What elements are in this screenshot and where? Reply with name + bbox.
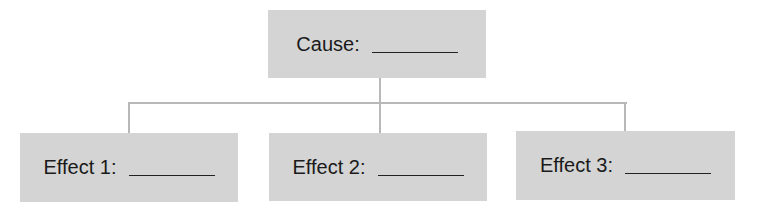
effect-2-blank[interactable] [378,159,464,176]
connector-horizontal [128,102,627,104]
effect-3-label: Effect 3: [540,154,613,177]
connector-effect-3 [624,102,626,131]
cause-blank[interactable] [372,36,458,53]
cause-box: Cause: [268,10,486,78]
connector-cause-down [379,78,381,104]
effect-3-blank[interactable] [625,157,711,174]
connector-effect-2 [379,102,381,133]
effect-1-label: Effect 1: [43,156,116,179]
effect-3-box: Effect 3: [516,131,735,200]
effect-2-label: Effect 2: [292,156,365,179]
effect-2-box: Effect 2: [269,133,487,201]
connector-effect-1 [128,102,130,133]
effect-1-blank[interactable] [129,159,215,176]
cause-label: Cause: [296,33,359,56]
effect-1-box: Effect 1: [20,133,238,202]
